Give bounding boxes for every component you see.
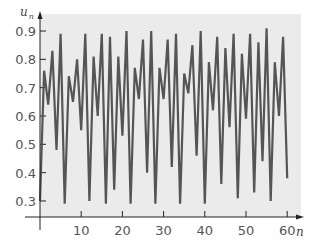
y-tick-label: 0.7 xyxy=(15,81,36,96)
line-chart: 0.30.40.50.60.70.80.9 102030405060 un n xyxy=(0,0,316,242)
y-tick-label: 0.8 xyxy=(15,52,36,67)
x-tick-label: 10 xyxy=(73,223,90,238)
x-tick-label: 30 xyxy=(155,223,172,238)
x-tick-label: 40 xyxy=(197,223,214,238)
y-axis-title: un xyxy=(20,5,34,21)
x-tick-label: 50 xyxy=(238,223,255,238)
y-tick-label: 0.3 xyxy=(15,194,36,209)
x-tick-label: 20 xyxy=(114,223,131,238)
y-tick-label: 0.6 xyxy=(15,109,36,124)
y-tick-label: 0.4 xyxy=(15,166,36,181)
x-tick-label: 60 xyxy=(279,223,296,238)
x-axis-title: n xyxy=(296,225,304,239)
y-tick-label: 0.5 xyxy=(15,137,36,152)
y-tick-label: 0.9 xyxy=(15,24,36,39)
